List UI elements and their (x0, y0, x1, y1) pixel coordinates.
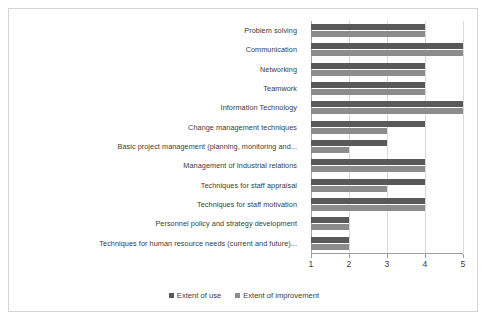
chart-plot-wrapper: Problem solvingCommunicationNetworkingTe… (9, 9, 479, 313)
legend-item: Extent of use (169, 291, 221, 300)
bar-extent-of-use (311, 121, 425, 127)
bar-extent-of-use (311, 140, 387, 146)
bar-group (311, 98, 463, 117)
legend-swatch-icon (169, 293, 174, 298)
category-label: Problem solving (9, 21, 303, 40)
bar-group (311, 156, 463, 175)
x-tick (387, 254, 388, 258)
bar-extent-of-improvement (311, 70, 425, 76)
x-tick-label: 2 (347, 259, 352, 269)
bar-extent-of-use (311, 82, 425, 88)
bar-group (311, 195, 463, 214)
category-label: Networking (9, 60, 303, 79)
bar-extent-of-use (311, 43, 463, 49)
bar-extent-of-improvement (311, 166, 425, 172)
bar-group (311, 40, 463, 59)
plot-area (311, 21, 463, 253)
x-axis-tick-labels: 12345 (311, 259, 463, 273)
bar-group (311, 118, 463, 137)
category-label: Basic project management (planning, moni… (9, 137, 303, 156)
bar-extent-of-use (311, 159, 425, 165)
bar-groups (311, 21, 463, 253)
bar-group (311, 214, 463, 233)
chart-legend: Extent of useExtent of improvement (9, 291, 479, 300)
category-label: Personnel policy and strategy developmen… (9, 214, 303, 233)
bar-extent-of-improvement (311, 244, 349, 250)
category-label: Management of Industrial relations (9, 156, 303, 175)
category-axis-labels: Problem solvingCommunicationNetworkingTe… (9, 21, 303, 253)
bar-extent-of-improvement (311, 224, 349, 230)
category-label: Information Technology (9, 98, 303, 117)
category-label: Techniques for staff appraisal (9, 176, 303, 195)
bar-group (311, 21, 463, 40)
bar-extent-of-use (311, 101, 463, 107)
bar-extent-of-improvement (311, 128, 387, 134)
bar-extent-of-improvement (311, 186, 387, 192)
bar-group (311, 234, 463, 253)
x-tick-label: 4 (423, 259, 428, 269)
x-tick (349, 254, 350, 258)
bar-group (311, 79, 463, 98)
bar-extent-of-improvement (311, 108, 463, 114)
chart-frame: Problem solvingCommunicationNetworkingTe… (8, 8, 478, 312)
x-axis-ticks (311, 254, 463, 258)
bar-extent-of-improvement (311, 147, 349, 153)
bar-group (311, 176, 463, 195)
x-tick (425, 254, 426, 258)
bar-extent-of-use (311, 198, 425, 204)
x-tick-label: 3 (385, 259, 390, 269)
legend-label: Extent of improvement (243, 291, 319, 300)
x-tick (311, 254, 312, 258)
legend-item: Extent of improvement (235, 291, 319, 300)
category-label: Communication (9, 40, 303, 59)
bar-group (311, 137, 463, 156)
bar-extent-of-improvement (311, 31, 425, 37)
bar-extent-of-use (311, 24, 425, 30)
legend-label: Extent of use (177, 291, 221, 300)
x-tick-label: 5 (461, 259, 466, 269)
category-label: Change management techniques (9, 118, 303, 137)
bar-extent-of-use (311, 237, 349, 243)
bar-extent-of-use (311, 217, 349, 223)
category-label: Techniques for staff motivation (9, 195, 303, 214)
bar-extent-of-improvement (311, 205, 425, 211)
x-tick (463, 254, 464, 258)
bar-extent-of-improvement (311, 50, 463, 56)
bar-group (311, 60, 463, 79)
x-tick-label: 1 (309, 259, 314, 269)
bar-extent-of-use (311, 179, 425, 185)
bar-extent-of-use (311, 63, 425, 69)
category-label: Teamwork (9, 79, 303, 98)
legend-swatch-icon (235, 293, 240, 298)
gridline (463, 21, 464, 253)
bar-extent-of-improvement (311, 89, 425, 95)
category-label: Techniques for human resource needs (cur… (9, 234, 303, 253)
